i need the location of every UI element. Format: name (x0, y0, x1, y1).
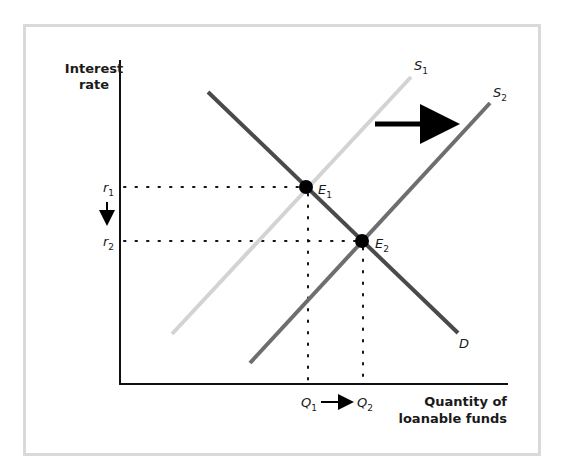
y-axis-label-line1: Interest (65, 61, 123, 76)
x-axis-label-line2: loanable funds (398, 411, 507, 426)
r2-label: r2 (103, 234, 114, 252)
equilibrium-e2-dot (355, 234, 369, 248)
y-axis-label-line2: rate (79, 77, 109, 92)
s1-label: S1 (414, 58, 428, 76)
r1-label: r1 (103, 180, 114, 198)
d-label: D (459, 336, 469, 351)
equilibrium-e1-dot (299, 180, 313, 194)
e2-label: E2 (375, 236, 389, 254)
q2-label: Q2 (357, 395, 373, 413)
demand-curve-d (208, 92, 458, 333)
supply-curve-s2 (250, 103, 490, 363)
q1-label: Q1 (301, 395, 317, 413)
loanable-funds-diagram: Interest rate Quantity of loanable funds… (0, 0, 562, 473)
supply-curve-s1 (172, 77, 411, 334)
x-axis-label-line1: Quantity of (424, 394, 507, 409)
s2-label: S2 (493, 85, 507, 103)
